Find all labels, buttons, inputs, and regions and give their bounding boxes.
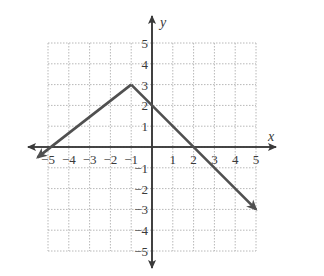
coordinate-plane: xy −5−4−3−2−11234554321−1−2−3−4−5	[0, 0, 324, 276]
axes: xy	[28, 15, 276, 268]
y-axis-label: y	[158, 15, 167, 30]
x-axis-label: x	[267, 129, 275, 144]
x-tick-label: −4	[62, 152, 76, 167]
x-tick-label: 2	[190, 152, 197, 167]
y-tick-label: −1	[134, 161, 148, 176]
x-tick-label: −2	[103, 152, 117, 167]
x-tick-label: 4	[232, 152, 239, 167]
y-tick-label: 1	[142, 119, 149, 134]
y-tick-label: 3	[142, 78, 149, 93]
x-tick-label: 5	[253, 152, 260, 167]
y-tick-label: 4	[142, 57, 149, 72]
x-tick-label: 1	[170, 152, 177, 167]
y-tick-label: −3	[134, 202, 148, 217]
y-tick-label: −4	[134, 223, 148, 238]
y-tick-label: 5	[142, 36, 149, 51]
x-tick-label: −3	[83, 152, 97, 167]
y-tick-label: −2	[134, 182, 148, 197]
y-tick-label: −5	[134, 244, 148, 259]
